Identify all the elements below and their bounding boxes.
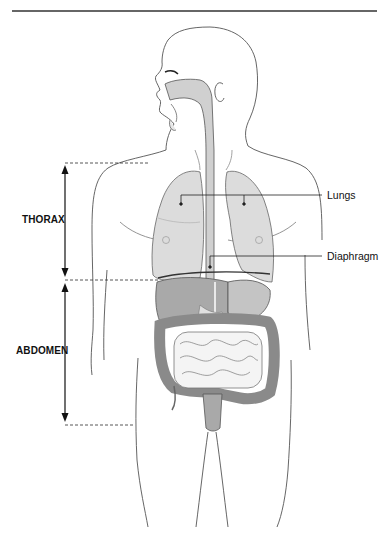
lungs-label: Lungs	[327, 189, 356, 201]
anatomy-illustration	[0, 0, 391, 543]
small-intestine	[174, 332, 262, 388]
thorax-label: THORAX	[22, 214, 65, 225]
abdomen-label: ABDOMEN	[16, 345, 68, 356]
diaphragm-label: Diaphragm	[327, 250, 378, 262]
anatomy-figure: THORAX ABDOMEN Lungs Diaphragm	[0, 0, 391, 543]
region-boundaries	[65, 163, 158, 425]
